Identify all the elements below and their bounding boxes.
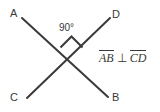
point-label-a: A [10,8,17,19]
point-label-d: D [112,9,120,20]
point-label-c: C [10,92,18,103]
point-label-b: B [112,92,119,103]
perpendicular-symbol: ⊥ [116,52,128,66]
segment-cd-notation: CD [130,50,147,66]
perpendicular-relation: AB ⊥ CD [99,50,146,66]
segment-ab-notation: AB [99,50,114,66]
right-angle-marker [61,37,83,48]
angle-measure-label: 90° [59,23,74,33]
geometry-diagram: A D C B 90° AB ⊥ CD [0,0,160,112]
